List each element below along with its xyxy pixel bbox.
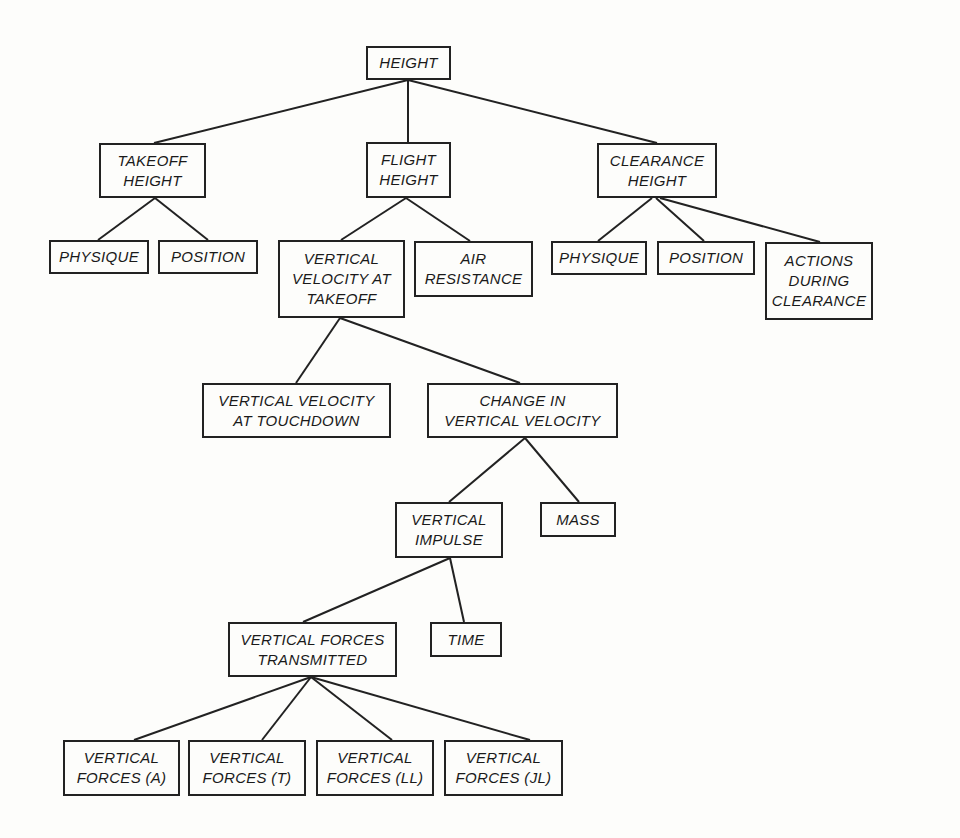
hierarchy-diagram: HEIGHTTAKEOFF HEIGHTFLIGHT HEIGHTCLEARAN… — [0, 0, 960, 838]
node-physique-1: PHYSIQUE — [49, 240, 149, 274]
node-vv-touchdown: VERTICAL VELOCITY AT TOUCHDOWN — [202, 383, 391, 438]
edge-vertical_impulse-to-time — [450, 558, 464, 622]
node-vf-a: VERTICAL FORCES (A) — [63, 740, 180, 796]
edge-vv_takeoff-to-vv_touchdown — [296, 318, 340, 383]
node-vertical-impulse: VERTICAL IMPULSE — [395, 502, 503, 558]
node-clearance-height: CLEARANCE HEIGHT — [597, 143, 717, 198]
edge-flight_height-to-vv_takeoff — [341, 198, 406, 240]
node-change-vv: CHANGE IN VERTICAL VELOCITY — [427, 383, 618, 438]
edge-takeoff_height-to-physique_1 — [98, 198, 155, 240]
edge-takeoff_height-to-position_1 — [155, 198, 208, 240]
node-physique-2: PHYSIQUE — [551, 241, 647, 275]
edge-change_vv-to-vertical_impulse — [449, 438, 525, 502]
edge-height-to-takeoff_height — [154, 80, 408, 143]
node-vv-takeoff: VERTICAL VELOCITY AT TAKEOFF — [278, 240, 405, 318]
edge-clearance_height-to-physique_2 — [598, 198, 652, 241]
edge-flight_height-to-air_resistance — [406, 198, 470, 241]
edge-change_vv-to-mass — [525, 438, 579, 502]
node-mass: MASS — [540, 502, 616, 537]
node-vf-jl: VERTICAL FORCES (JL) — [444, 740, 563, 796]
node-height: HEIGHT — [366, 46, 451, 80]
edge-height-to-clearance_height — [408, 80, 657, 143]
node-vf-ll: VERTICAL FORCES (LL) — [316, 740, 434, 796]
node-air-resistance: AIR RESISTANCE — [414, 241, 533, 297]
edge-vf_transmitted-to-vf_a — [134, 677, 311, 740]
edge-clearance_height-to-actions_clearance — [660, 198, 820, 242]
node-vf-t: VERTICAL FORCES (T) — [188, 740, 306, 796]
edge-vv_takeoff-to-change_vv — [340, 318, 520, 383]
node-position-1: POSITION — [158, 240, 258, 274]
node-takeoff-height: TAKEOFF HEIGHT — [99, 143, 206, 198]
node-actions-clearance: ACTIONS DURING CLEARANCE — [765, 242, 873, 320]
edge-vf_transmitted-to-vf_jl — [311, 677, 530, 740]
edge-vertical_impulse-to-vf_transmitted — [303, 558, 450, 622]
node-time: TIME — [430, 622, 502, 657]
node-vf-transmitted: VERTICAL FORCES TRANSMITTED — [228, 622, 397, 677]
node-flight-height: FLIGHT HEIGHT — [366, 142, 451, 198]
edge-vf_transmitted-to-vf_ll — [311, 677, 392, 740]
node-position-2: POSITION — [657, 241, 755, 275]
